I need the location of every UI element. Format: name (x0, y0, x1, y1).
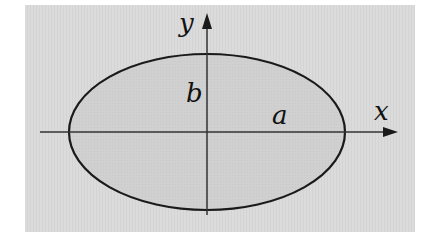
x-axis-label: x (374, 96, 389, 126)
ellipse-diagram: y b a x (0, 0, 424, 247)
y-axis-label: y (178, 8, 194, 38)
semi-major-label-a: a (272, 100, 288, 130)
semi-minor-label-b: b (186, 78, 203, 108)
